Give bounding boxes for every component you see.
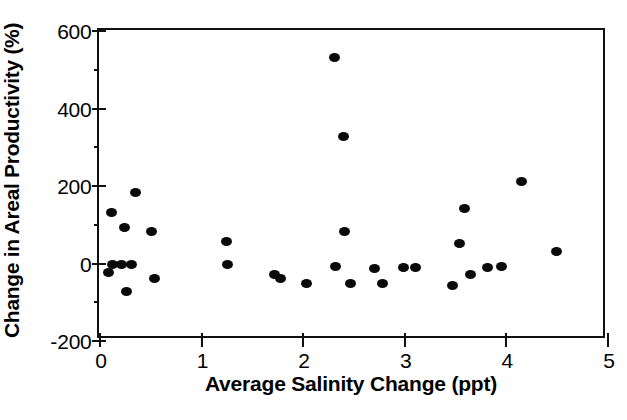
data-point — [126, 260, 137, 269]
data-point — [465, 270, 476, 279]
y-minor-tick — [94, 69, 99, 71]
data-point — [221, 237, 232, 246]
data-point — [338, 132, 349, 141]
y-tick-400: 400 — [92, 108, 106, 110]
data-point — [454, 239, 465, 248]
y-tick-200: 200 — [92, 185, 106, 187]
y-minor-tick — [94, 224, 99, 226]
y-minor-tick — [94, 301, 99, 303]
data-point — [482, 263, 493, 272]
data-point — [130, 188, 141, 197]
x-tick-label-1: 1 — [197, 349, 209, 373]
x-tick-label-3: 3 — [400, 349, 412, 373]
data-point — [377, 279, 388, 288]
data-point — [398, 263, 409, 272]
y-tick-600: 600 — [92, 30, 106, 32]
x-tick-4: 4 — [505, 333, 507, 347]
data-point — [329, 53, 340, 62]
y-tick-label-200: 200 — [57, 175, 91, 199]
data-point — [459, 204, 470, 213]
data-point — [516, 177, 527, 186]
data-point — [119, 223, 130, 232]
data-point — [345, 279, 356, 288]
x-tick-label-4: 4 — [502, 349, 514, 373]
data-points-layer — [99, 30, 603, 336]
data-point — [301, 279, 312, 288]
x-tick-1: 1 — [201, 333, 203, 347]
data-point — [410, 263, 421, 272]
x-tick-label-5: 5 — [603, 349, 615, 373]
y-axis-title: Change in Areal Productivity (%) — [0, 28, 30, 338]
x-tick-5: 5 — [607, 333, 609, 347]
y-minor-tick — [94, 146, 99, 148]
y-tick-0: 0 — [92, 263, 106, 265]
data-point — [369, 264, 380, 273]
plot-area: -2000200400600 012345 — [97, 28, 605, 338]
x-tick-3: 3 — [404, 333, 406, 347]
x-tick-2: 2 — [302, 333, 304, 347]
data-point — [275, 274, 286, 283]
data-point — [222, 260, 233, 269]
data-point — [330, 262, 341, 271]
data-point — [121, 287, 132, 296]
y-tick-label--200: -200 — [50, 330, 91, 354]
data-point — [149, 274, 160, 283]
x-tick-0: 0 — [99, 333, 101, 347]
data-point — [496, 262, 507, 271]
scatter-chart-figure: -2000200400600 012345 Change in Areal Pr… — [0, 0, 627, 420]
data-point — [146, 227, 157, 236]
data-point — [551, 247, 562, 256]
y-tick-label-600: 600 — [57, 20, 91, 44]
x-axis-title: Average Salinity Change (ppt) — [97, 372, 605, 396]
data-point — [339, 227, 350, 236]
y-tick-label-0: 0 — [80, 252, 91, 276]
data-point — [103, 268, 114, 277]
data-point — [106, 208, 117, 217]
x-tick-label-2: 2 — [298, 349, 310, 373]
x-tick-label-0: 0 — [95, 349, 107, 373]
y-tick-label-400: 400 — [57, 97, 91, 121]
data-point — [447, 281, 458, 290]
